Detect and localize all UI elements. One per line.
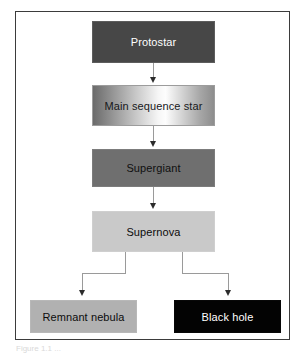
- node-supergiant-label: Supergiant: [126, 162, 180, 174]
- edge-supernova-to-remnant-stem: [125, 252, 126, 274]
- node-remnant-nebula[interactable]: Remnant nebula: [30, 300, 137, 333]
- node-main-sequence-star[interactable]: Main sequence star: [92, 85, 215, 126]
- edge-supernova-to-remnant-arrowhead-icon: [79, 290, 85, 296]
- figure-caption: Figure 1.1 ...: [16, 344, 136, 353]
- figure-container: Protostar Main sequence star Supergiant …: [0, 0, 306, 353]
- node-remnant-nebula-label: Remnant nebula: [42, 311, 124, 323]
- node-supernova-label: Supernova: [126, 226, 180, 238]
- node-protostar-label: Protostar: [131, 36, 177, 48]
- edge-supernova-to-remnant-crossbar: [82, 273, 126, 274]
- edge-supergiant-to-supernova-line: [153, 187, 154, 203]
- edge-supernova-to-black-hole-stem: [182, 252, 183, 274]
- diagram-stage: Protostar Main sequence star Supergiant …: [0, 0, 306, 353]
- node-black-hole[interactable]: Black hole: [174, 300, 281, 333]
- edge-protostar-to-main-sequence-arrowhead-icon: [150, 77, 156, 83]
- node-black-hole-label: Black hole: [202, 311, 254, 323]
- edge-supernova-to-black-hole-crossbar: [182, 273, 229, 274]
- edge-main-sequence-to-supergiant-arrowhead-icon: [150, 141, 156, 147]
- edge-supernova-to-black-hole-drop: [228, 273, 229, 290]
- edge-supernova-to-remnant-drop: [82, 273, 83, 290]
- node-supernova[interactable]: Supernova: [92, 211, 215, 252]
- edge-supergiant-to-supernova-arrowhead-icon: [150, 203, 156, 209]
- edge-main-sequence-to-supergiant-line: [153, 126, 154, 141]
- edge-protostar-to-main-sequence-line: [153, 63, 154, 77]
- node-protostar[interactable]: Protostar: [92, 21, 215, 63]
- node-supergiant[interactable]: Supergiant: [92, 149, 215, 187]
- edge-supernova-to-black-hole-arrowhead-icon: [225, 290, 231, 296]
- node-main-sequence-star-label: Main sequence star: [105, 100, 203, 112]
